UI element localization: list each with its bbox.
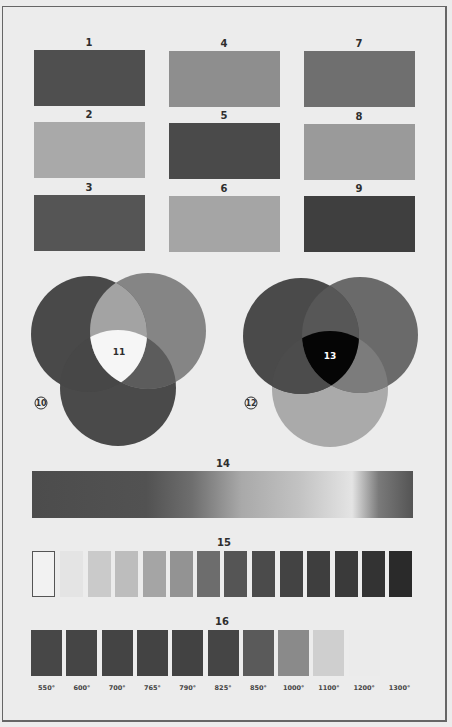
venn-diagram-12 [243,277,418,447]
venn12-marker-text: 12 [245,399,256,408]
scale16-swatch [243,630,274,676]
venn10-center-label: 11 [113,348,126,357]
scale16-label: 16 [215,617,229,627]
scale15-swatch [362,551,385,597]
temperature-label: 1000° [283,684,304,692]
venn10-marker: 10 [35,397,48,410]
scale16-swatch [66,630,97,676]
scale15-swatch [197,551,220,597]
temperature-label: 1100° [318,684,339,692]
scale15-swatch [307,551,330,597]
scale16-swatch [349,630,380,676]
venn10-marker-text: 10 [35,399,46,408]
scale15-swatch [143,551,166,597]
venn12-marker: 12 [245,397,258,410]
temperature-label: 850° [250,684,267,692]
gradient-label: 14 [216,459,230,469]
scale15-swatch [60,551,83,597]
scale15-swatch [115,551,138,597]
scale16-swatch [278,630,309,676]
scale15-swatch [252,551,275,597]
gradient-bar [32,471,413,518]
scale16-swatch [31,630,62,676]
scale15-swatch [88,551,111,597]
temperature-label: 790° [179,684,196,692]
venn12-center-label: 13 [324,352,337,361]
scale16-swatch [172,630,203,676]
scale15-swatch [389,551,412,597]
temperature-label: 765° [144,684,161,692]
scale16-swatch [384,630,415,676]
scale15-label: 15 [217,538,231,548]
temperature-label: 825° [215,684,232,692]
temperature-label: 1300° [389,684,410,692]
scale15-swatch [32,551,55,597]
temperature-label: 700° [109,684,126,692]
temperature-label: 550° [38,684,55,692]
scale15-swatch [224,551,247,597]
scale15-swatch [170,551,193,597]
temperature-label: 1200° [354,684,375,692]
scale16-swatch [313,630,344,676]
venn-diagram-10 [31,273,206,446]
scale15-swatch [280,551,303,597]
scale16-swatch [208,630,239,676]
scale16-swatch [102,630,133,676]
scale16-swatch [137,630,168,676]
temperature-label: 600° [73,684,90,692]
scale15-swatch [335,551,358,597]
